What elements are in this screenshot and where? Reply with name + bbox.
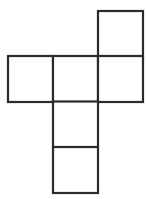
face-lower-center — [53, 102, 98, 148]
cube-net-diagram — [0, 0, 146, 199]
face-top-right — [98, 11, 143, 57]
face-bottom-center — [53, 147, 98, 193]
cube-net-faces — [8, 11, 143, 193]
face-middle-center — [53, 56, 98, 102]
face-middle-left — [8, 56, 53, 102]
face-middle-right — [98, 56, 143, 102]
